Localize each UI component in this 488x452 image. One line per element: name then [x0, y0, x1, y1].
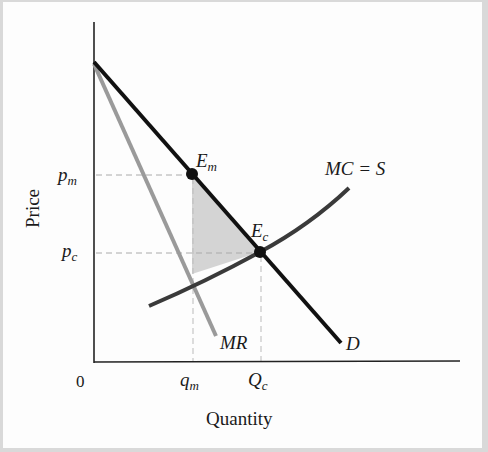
price-tick-pc: pc	[62, 240, 77, 262]
origin-label: 0	[76, 372, 85, 392]
quantity-tick-qm: qm	[180, 369, 199, 391]
quantity-tick-qc: Qc	[248, 369, 268, 391]
demand-curve	[94, 62, 341, 343]
competitive-eq-label: Ec	[251, 220, 268, 242]
chart-canvas	[0, 0, 488, 452]
price-tick-pm: pm	[58, 164, 77, 186]
demand-label: D	[346, 333, 360, 355]
competitive-equilibrium-point	[254, 246, 266, 258]
monopoly-eq-label: Em	[196, 150, 217, 172]
x-axis-label: Quantity	[206, 408, 273, 430]
y-axis-label: Price	[22, 189, 44, 228]
mc-supply-label: MC = S	[325, 158, 385, 180]
mr-label: MR	[220, 332, 247, 354]
x-axis	[94, 361, 460, 362]
